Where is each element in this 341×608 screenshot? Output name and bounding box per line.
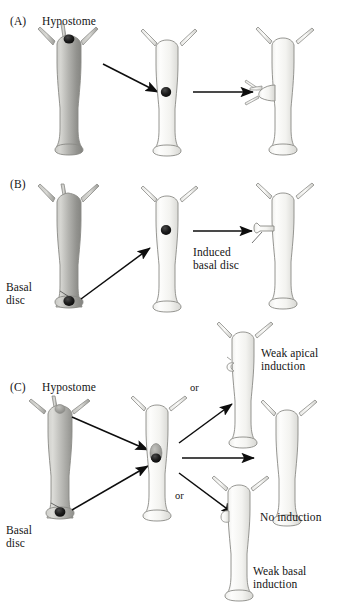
panel-c-two-tone-graft bbox=[150, 444, 162, 463]
panel-c-weak-apical-induction-label: Weak apical induction bbox=[261, 347, 318, 373]
panel-a-host-hydra-secondary-axis bbox=[245, 27, 314, 155]
panel-b-transplant-arrow bbox=[81, 248, 150, 299]
panel-c-id: (C) bbox=[10, 381, 26, 394]
panel-a-transplant-arrow bbox=[103, 64, 158, 92]
panel-b-induced-basal-disc-label: Induced basal disc bbox=[193, 246, 239, 272]
panel-c-donor-hydra bbox=[29, 396, 90, 519]
panel-c-basal-disc-label: Basal disc bbox=[6, 524, 32, 550]
panel-c-weak-basal-induction-label: Weak basal induction bbox=[253, 565, 306, 591]
panel-c-outcome-no-induction bbox=[261, 400, 317, 526]
panel-c-or-label-upper: or bbox=[190, 382, 199, 394]
panel-c-host-hydra-double-graft bbox=[131, 396, 187, 521]
panel-b-basal-disc-marker bbox=[63, 296, 74, 306]
panel-b-graft-dot bbox=[161, 225, 171, 235]
panel-c-branch-arrow-down bbox=[179, 473, 234, 514]
panel-c-or-label-lower: or bbox=[175, 490, 184, 502]
panel-a-graft-dot bbox=[161, 87, 171, 97]
panel-c-basal-disc-marker bbox=[55, 507, 66, 517]
panel-c-no-induction-label: No induction bbox=[260, 511, 322, 524]
panel-c-outcome-weak-apical bbox=[217, 322, 273, 448]
panel-b-induced-leader bbox=[252, 232, 262, 243]
panel-b-host-hydra-induced-foot bbox=[254, 183, 314, 309]
panel-c-basal-bump bbox=[221, 511, 229, 522]
panel-c-transplant-arrow-base bbox=[72, 466, 148, 510]
panel-c-branch-arrow-up bbox=[179, 404, 232, 443]
panel-a-id: (A) bbox=[10, 15, 26, 28]
panel-c-hypostome-label: Hypostome bbox=[42, 381, 96, 394]
panel-b-donor-hydra bbox=[38, 184, 99, 308]
hydra-grafting-figure: (A) Hypostome (B) Basal disc Induced bas… bbox=[0, 0, 341, 608]
panel-c-transplant-arrow-apex bbox=[72, 417, 148, 450]
panel-c-hypostome-marker bbox=[55, 405, 65, 414]
panel-a-hypostome-label: Hypostome bbox=[42, 15, 96, 28]
panel-a-host-hydra-grafted bbox=[141, 29, 197, 156]
panel-b-basal-disc-label: Basal disc bbox=[6, 281, 32, 307]
panel-b-induced-basal-disc bbox=[254, 223, 274, 233]
panel-b-id: (B) bbox=[10, 178, 26, 191]
panel-a-donor-hydra bbox=[38, 24, 98, 155]
